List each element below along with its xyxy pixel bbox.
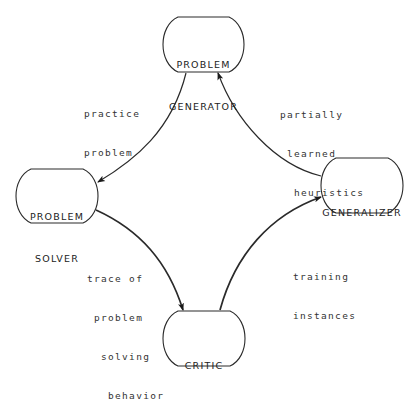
edge-label-line: practice [84,107,140,120]
node-label-line: CRITIC [162,359,246,373]
edge-label-line: solving [87,350,164,363]
edge-label-line: trace of [87,272,164,285]
edge-label-line: problem [87,311,164,324]
edge-label-line: heuristics [280,186,364,199]
node-label-critic: CRITIC [162,331,246,387]
edge-label-practice-problem: practice problem [84,81,140,172]
node-label-line: PROBLEM [162,58,245,72]
edge-label-line: learned [280,147,364,160]
node-label-line: GENERATOR [162,100,245,114]
node-label-line: PROBLEM [15,210,99,224]
edge-label-line: instances [293,309,356,322]
node-label-problem-generator: PROBLEM GENERATOR [162,30,245,128]
edge-label-line: behavior [87,389,164,402]
edge-label-trace-of-problem-solving: trace of problem solving behavior [87,246,164,403]
edge-label-training-instances: training instances [293,244,356,335]
edge-label-line: problem [84,146,140,159]
edge-label-line: training [293,270,356,283]
edge-label-line: partially [280,108,364,121]
edge-label-partially-learned-heuristics: partially learned heuristics [280,82,364,212]
